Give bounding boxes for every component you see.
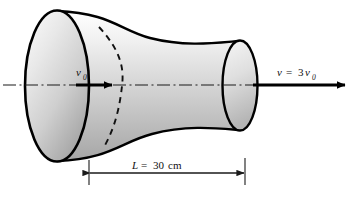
length-value: 30 [153, 159, 165, 171]
inlet-velocity-subscript: 0 [83, 73, 87, 82]
outlet-velocity-equals: = [286, 66, 292, 78]
outlet-velocity-symbol: v [305, 66, 310, 78]
nozzle-figure: v 0 v = 3 v 0 L = 30 cm [0, 0, 354, 199]
length-unit: cm [168, 159, 182, 171]
length-symbol: L [131, 159, 138, 171]
outlet-velocity-factor: 3 [298, 66, 304, 78]
nozzle-svg: v 0 v = 3 v 0 L = 30 cm [0, 0, 354, 199]
length-dimension: L = 30 cm [89, 158, 245, 185]
outlet-velocity-subscript: 0 [312, 73, 316, 82]
outlet-velocity-prefix: v [277, 66, 282, 78]
outlet-velocity-label: v = 3 v 0 [277, 66, 316, 82]
inlet-velocity-symbol: v [76, 66, 81, 78]
length-equals: = [141, 159, 147, 171]
length-dimension-label: L = 30 cm [131, 159, 182, 171]
